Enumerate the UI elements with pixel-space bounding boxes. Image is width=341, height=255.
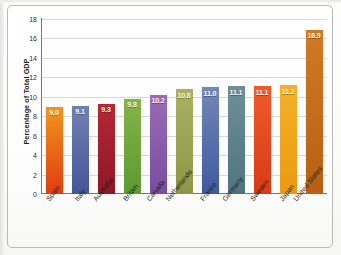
bar[interactable]: 10.2 (150, 95, 167, 194)
x-label-slot: Britain (119, 196, 145, 248)
bar[interactable]: 11.1 (254, 86, 271, 194)
bar-value-label: 9.8 (124, 101, 141, 108)
y-axis-tick-label: 16 (29, 35, 37, 42)
x-label-slot: United States (301, 196, 327, 248)
bar[interactable]: 9.8 (124, 99, 141, 194)
bar-slot: 9.3 (93, 19, 119, 194)
page-left-edge (0, 0, 4, 255)
page-top-edge (0, 0, 341, 3)
bar[interactable]: 11.0 (202, 87, 219, 194)
bar-value-label: 10.8 (176, 92, 193, 99)
bar-value-label: 11.1 (228, 89, 245, 96)
bar[interactable]: 9.1 (72, 106, 89, 194)
y-axis-tick-label: 8 (33, 113, 37, 120)
y-axis-tick-label: 4 (33, 152, 37, 159)
y-axis-tick-label: 2 (33, 171, 37, 178)
bar-slot: 9.0 (41, 19, 67, 194)
x-label-slot: Spain (41, 196, 67, 248)
x-label-slot: Canada (145, 196, 171, 248)
x-label-slot: Italy (67, 196, 93, 248)
bar-slot: 11.0 (197, 19, 223, 194)
x-label-slot: Australia (93, 196, 119, 248)
x-label-slot: Germany (223, 196, 249, 248)
bar-slot: 10.8 (171, 19, 197, 194)
x-label-slot: France (197, 196, 223, 248)
bar-slot: 10.2 (145, 19, 171, 194)
bar-value-label: 10.2 (150, 97, 167, 104)
plot-area: 024681012141618 9.09.19.39.810.210.811.0… (41, 19, 327, 194)
y-axis-tick-label: 18 (29, 16, 37, 23)
bar[interactable]: 11.2 (280, 85, 297, 194)
bar[interactable]: 9.0 (46, 107, 63, 195)
bar-value-label: 9.3 (98, 106, 115, 113)
scanned-page-background: Percentage of Total GDP 024681012141618 … (0, 0, 341, 255)
x-label-slot: Netherlands (171, 196, 197, 248)
y-axis-tick-label: 6 (33, 132, 37, 139)
bar-value-label: 16.9 (306, 32, 323, 39)
bar-value-label: 11.1 (254, 89, 271, 96)
bar-slot: 11.2 (275, 19, 301, 194)
bar-value-label: 9.0 (46, 109, 63, 116)
y-axis-tick-label: 10 (29, 93, 37, 100)
bar-value-label: 11.2 (280, 88, 297, 95)
x-label-slot: Japan (275, 196, 301, 248)
x-label-slot: Sweden (249, 196, 275, 248)
bar-slot: 11.1 (249, 19, 275, 194)
bar-value-label: 9.1 (72, 108, 89, 115)
y-axis-tick-label: 12 (29, 74, 37, 81)
y-axis-title: Percentage of Total GDP (22, 47, 31, 157)
bar-value-label: 11.0 (202, 90, 219, 97)
y-axis-tick-label: 0 (33, 191, 37, 198)
x-axis-category-labels: SpainItalyAustraliaBritainCanadaNetherla… (41, 196, 327, 248)
bar-slot: 11.1 (223, 19, 249, 194)
bar-slot: 9.1 (67, 19, 93, 194)
bar-slot: 9.8 (119, 19, 145, 194)
y-axis-tick-label: 14 (29, 54, 37, 61)
bars-group: 9.09.19.39.810.210.811.011.111.111.216.9 (41, 19, 327, 194)
bar-chart: Percentage of Total GDP 024681012141618 … (7, 5, 333, 248)
